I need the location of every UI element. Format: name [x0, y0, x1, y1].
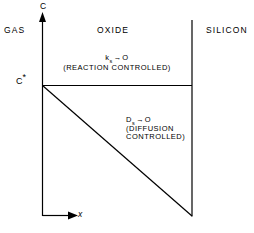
diffusion-controlled-line: [43, 86, 193, 217]
annotation-diffusion-expression: Ds→O: [126, 116, 192, 124]
annotation-diffusion-caption-line2: CONTROLLED): [126, 133, 192, 141]
y-axis: [39, 12, 46, 216]
annotation-reaction-caption: (REACTION CONTROLLED): [57, 64, 177, 72]
reaction-arrow-icon: →: [113, 53, 123, 62]
x-axis-label: x: [78, 210, 82, 219]
annotation-reaction-controlled: ks→O (REACTION CONTROLLED): [57, 54, 177, 72]
x-axis: [43, 212, 79, 220]
annotation-diffusion-controlled: Ds→O (DIFFUSION CONTROLLED): [126, 116, 192, 141]
c-star-superscript: *: [23, 72, 27, 82]
region-label-silicon: SILICON: [206, 26, 248, 35]
oxidation-profile-figure: GAS OXIDE SILICON C x C* ks→O (REACTION …: [0, 0, 254, 233]
diffusion-arrow-icon: →: [135, 115, 145, 124]
y-axis-label: C: [40, 2, 46, 11]
reaction-limit-value: O: [122, 53, 128, 62]
diffusion-limit-value: O: [145, 115, 151, 124]
c-star-marker: C*: [16, 77, 26, 86]
annotation-reaction-expression: ks→O: [57, 54, 177, 62]
region-label-oxide: OXIDE: [97, 26, 129, 35]
region-label-gas: GAS: [4, 26, 25, 35]
